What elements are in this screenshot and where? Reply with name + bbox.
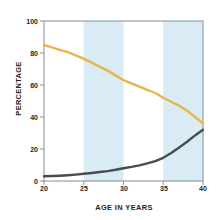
background-bands	[44, 21, 203, 181]
chart-container: PERCENTAGE AGE IN YEARS 100 80 60 40 20 …	[0, 0, 217, 220]
plot-area	[0, 0, 217, 220]
background-band-0	[84, 21, 124, 181]
